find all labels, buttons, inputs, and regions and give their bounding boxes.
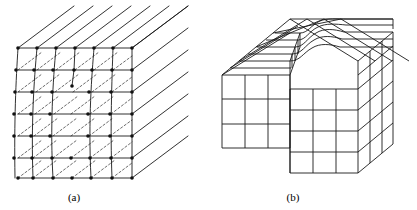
figure-container: (a) (b) <box>0 0 417 210</box>
caption-b: (b) <box>287 191 300 204</box>
caption-a: (a) <box>68 191 81 204</box>
figure-canvas: (a) (b) <box>0 0 417 210</box>
panel-a-core-atom <box>70 84 74 88</box>
figure-background <box>0 0 417 210</box>
